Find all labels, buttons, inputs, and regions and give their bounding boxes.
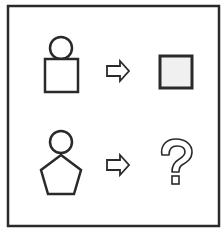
row1-result-square <box>160 56 192 88</box>
row1-circle <box>50 37 72 59</box>
row2-circle <box>50 131 72 153</box>
row1-square <box>45 59 78 92</box>
analogy-puzzle-diagram <box>0 0 224 234</box>
outer-frame <box>8 6 219 226</box>
